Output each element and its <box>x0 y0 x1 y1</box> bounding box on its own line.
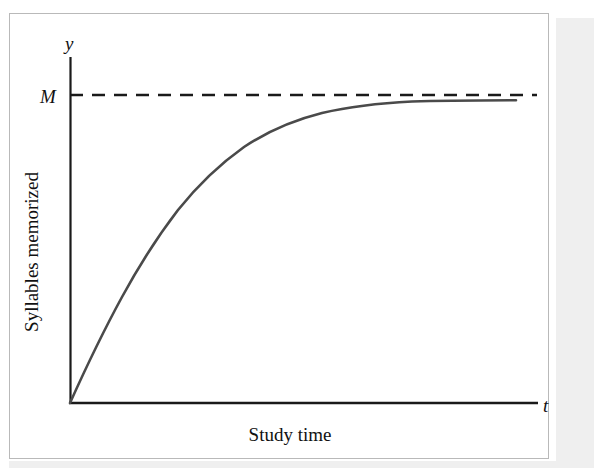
page-shadow-right <box>556 18 594 468</box>
figure-frame <box>9 13 549 459</box>
figure-page: y M t Study time Syllables memorized <box>0 0 594 468</box>
caption-strip <box>0 0 594 12</box>
page-shadow-bottom <box>9 461 556 468</box>
